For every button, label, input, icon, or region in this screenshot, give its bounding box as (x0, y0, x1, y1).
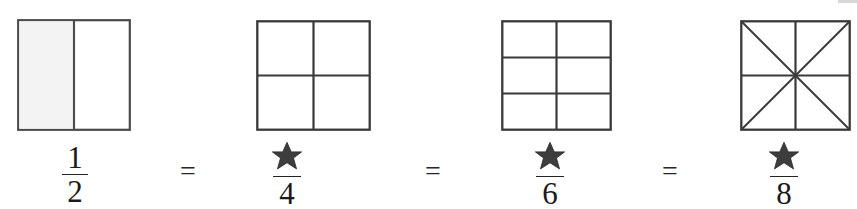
fraction-denominator: 8 (755, 177, 813, 209)
square-partition-eighths (740, 20, 851, 131)
fraction-model-square-4 (740, 20, 851, 131)
equals-operator-1: = (180, 157, 196, 185)
square-partition-fourths (256, 20, 371, 131)
fraction-term-3: 6 (521, 141, 579, 209)
fraction-numerator-blank[interactable] (521, 141, 579, 175)
scan-edge-artifact (838, 0, 857, 3)
equivalent-fractions-worksheet: 1 2 = 4 = (0, 0, 857, 209)
fraction-denominator: 4 (258, 177, 316, 209)
fraction-numerator-blank[interactable] (755, 141, 813, 175)
fraction-denominator: 2 (48, 175, 102, 208)
fraction-denominator: 6 (521, 177, 579, 209)
fraction-model-square-1 (17, 19, 131, 131)
shaded-part (19, 21, 73, 128)
fraction-term-1: 1 2 (48, 143, 102, 208)
fraction-term-2: 4 (258, 141, 316, 209)
fraction-model-square-3 (501, 20, 612, 131)
square-partition-halves (17, 19, 131, 131)
six-pointed-star-icon (767, 141, 801, 175)
equals-operator-3: = (662, 157, 678, 185)
fraction-numerator: 1 (48, 143, 102, 173)
fraction-model-square-2 (256, 20, 371, 131)
fraction-term-4: 8 (755, 141, 813, 209)
fraction-numerator-blank[interactable] (258, 141, 316, 175)
square-partition-sixths (501, 20, 612, 131)
equals-operator-2: = (425, 157, 441, 185)
six-pointed-star-icon (270, 141, 304, 175)
six-pointed-star-icon (533, 141, 567, 175)
